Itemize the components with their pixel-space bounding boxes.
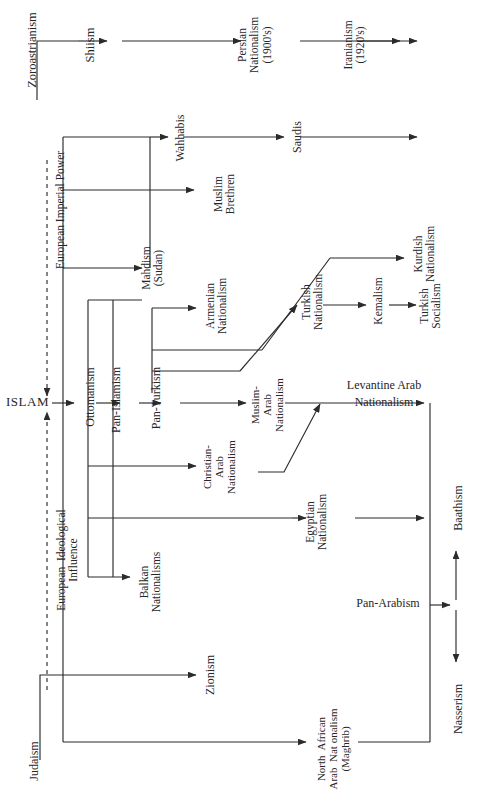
node-wahhabis: Wahhabis: [174, 98, 187, 178]
node-zoroastrianism: Zoroastrianism: [26, 0, 40, 100]
edge-zoroastrianism-shiism: [37, 41, 78, 100]
node-saudis: Saudis: [291, 106, 304, 168]
node-north-african-arab-nationalism: North African Arab Nat onalism (Maghrib): [316, 692, 352, 806]
node-iranianism: Iranianism (1920's): [342, 10, 367, 80]
node-zionism: Zionism: [204, 638, 217, 712]
label-european-imperial-power: European Imperial Power: [54, 130, 66, 290]
node-ottomanism: Ottomanism: [84, 352, 97, 442]
label-european-ideological-influence: European Ideological Influence: [55, 480, 80, 640]
node-muslim-arab-nationalism: Muslim- Arab Nationalism: [250, 352, 286, 458]
node-kemalism: Kemalism: [372, 264, 384, 338]
node-baathism: Baathism: [452, 468, 465, 548]
node-egyptian-nationalism: Egyptian Nationalism: [304, 474, 329, 570]
node-christian-arab-nationalism: Christian- Arab Nationalism: [202, 414, 238, 520]
diagram-canvas: ISLAM Zoroastrianism Shiism Persian Nati…: [0, 0, 483, 808]
node-nasserism: Nasserism: [452, 666, 465, 752]
node-mahdism: Mahdism (Sudan): [140, 230, 165, 306]
node-muslim-brethren: Muslim Brethren: [212, 156, 237, 232]
node-levantine-arab-nationalism-line2: Nationalism: [334, 396, 434, 409]
node-islam: ISLAM: [6, 395, 49, 409]
node-balkan-nationalisms: Balkan Nationalisms: [138, 532, 163, 632]
node-persian-nationalism: Persian Nationalism (1900's): [236, 2, 273, 88]
node-shiism: Shiism: [84, 12, 98, 78]
node-levantine-arab-nationalism-line1: Levantine Arab: [334, 379, 434, 392]
node-pan-turkism: Pan-Turkism: [150, 352, 163, 444]
node-judaism: Judaism: [28, 722, 41, 800]
node-armenian-nationalism: Armenian Nationalism: [204, 256, 229, 356]
node-turkish-nationalism: Turkish Nationalism: [300, 252, 325, 352]
node-pan-arabism: Pan-Arabism: [348, 597, 428, 610]
node-kurdish-nationalism: Kurdish Nationalism: [412, 204, 437, 304]
node-pan-islamism: Pan-Islamism: [110, 352, 123, 448]
